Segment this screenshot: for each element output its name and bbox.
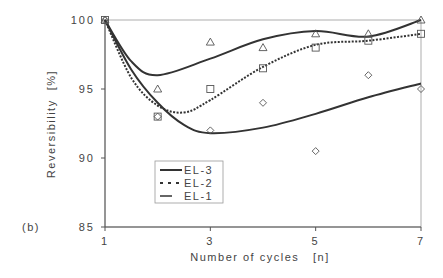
triangle-marker xyxy=(154,85,162,92)
y-tick-label: 100 xyxy=(71,14,95,26)
legend-label-el2: EL-2 xyxy=(184,177,213,189)
square-marker xyxy=(207,86,214,93)
y-tick-label: 95 xyxy=(79,83,95,95)
x-tick-label: 1 xyxy=(101,235,109,247)
triangle-marker xyxy=(259,44,267,51)
y-tick-label: 85 xyxy=(79,221,95,233)
triangle-marker xyxy=(206,38,214,45)
x-tick-label: 5 xyxy=(312,235,320,247)
diamond-marker xyxy=(154,113,161,120)
diamond-marker xyxy=(260,99,267,106)
fit-curves xyxy=(105,20,421,133)
x-tick-label: 7 xyxy=(417,235,425,247)
x-tick-label: 3 xyxy=(206,235,214,247)
square-marker xyxy=(154,113,161,120)
data-points xyxy=(101,16,425,155)
diamond-marker xyxy=(365,72,372,79)
legend-label-el3: EL-3 xyxy=(184,164,213,176)
legend: EL-3 EL-2 EL-1 xyxy=(155,161,223,203)
y-axis-label: Reversibility [%] xyxy=(45,70,57,178)
legend-label-el1: EL-1 xyxy=(184,190,213,202)
y-tick-label: 90 xyxy=(79,152,95,164)
reversibility-chart: 8590951001357 EL-3 EL-2 EL-1 (b) Number … xyxy=(0,0,443,278)
panel-label: (b) xyxy=(22,221,40,233)
fit-curve-el-1 xyxy=(105,20,421,133)
x-axis-label: Number of cycles [n] xyxy=(190,251,329,263)
diamond-marker xyxy=(312,148,319,155)
